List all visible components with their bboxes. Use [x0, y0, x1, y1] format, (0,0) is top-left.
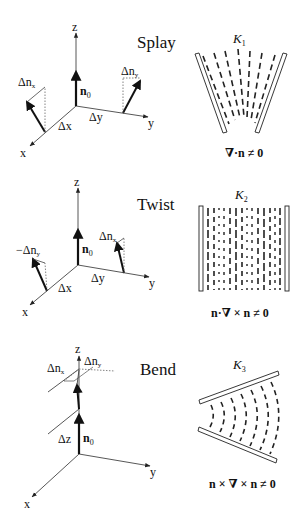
twist-texture — [199, 206, 289, 291]
k2-label: K2 — [234, 187, 248, 204]
splay-dnx-label: Δnx — [18, 75, 36, 90]
k1-label: K1 — [232, 31, 246, 48]
splay-texture — [195, 49, 287, 133]
splay-title: Splay — [137, 33, 176, 52]
bend-axes — [32, 356, 150, 497]
twist-dy-label: Δy — [91, 271, 105, 285]
twist-n0-label: n0 — [82, 242, 93, 258]
twist-x-axis-label: x — [22, 305, 28, 319]
twist-panel: z y x n0 −Δny Δx Δnx Δy Twist K2 — [16, 175, 289, 320]
twist-z-axis-label: z — [74, 175, 79, 189]
bend-title: Bend — [140, 360, 176, 379]
bend-z-axis-label: z — [75, 342, 80, 356]
bend-y-axis-label: y — [150, 465, 156, 479]
twist-axes — [30, 188, 149, 305]
liquid-crystal-deformation-diagram: z y x n0 Δnx Δx Δny Δy Splay K1 — [0, 0, 303, 526]
bend-panel: z y x n0 Δz Δnx Δny Bend K3 — [24, 342, 279, 511]
bend-dnx-label: Δnx — [47, 361, 65, 376]
splay-panel: z y x n0 Δnx Δx Δny Δy Splay K1 — [18, 20, 287, 160]
twist-dnx-arrow — [117, 243, 124, 273]
twist-dx-label: Δx — [58, 281, 72, 295]
splay-condition: ∇·n ≠ 0 — [225, 146, 263, 160]
bend-dny-label: Δny — [84, 354, 102, 369]
splay-dy-label: Δy — [89, 110, 103, 124]
k3-label: K3 — [232, 357, 246, 374]
splay-n0-label: n0 — [80, 84, 91, 100]
splay-dx-label: Δx — [58, 119, 72, 133]
twist-dnx-label: Δnx — [99, 229, 117, 244]
splay-dny-arrow — [123, 81, 140, 113]
twist-neg-dny-label: −Δny — [16, 243, 40, 258]
twist-title: Twist — [137, 195, 175, 214]
splay-z-axis-label: z — [72, 20, 77, 34]
splay-y-axis-label: y — [148, 116, 154, 130]
twist-y-axis-label: y — [149, 276, 155, 290]
bend-x-axis-label: x — [24, 497, 30, 511]
splay-dny-label: Δny — [121, 64, 139, 79]
twist-condition: n·∇ × n ≠ 0 — [211, 306, 269, 320]
bend-n0-label: n0 — [83, 431, 94, 447]
splay-dnx-arrow — [27, 102, 45, 132]
bend-dz-label: Δz — [58, 432, 71, 446]
splay-x-axis-label: x — [20, 146, 26, 160]
bend-texture — [198, 371, 279, 463]
bend-condition: n × ∇ × n ≠ 0 — [209, 477, 276, 491]
splay-axes — [30, 33, 148, 146]
